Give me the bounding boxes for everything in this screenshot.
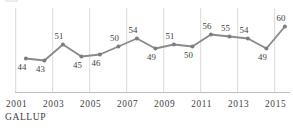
point-value-label: 44	[18, 62, 27, 72]
data-point-marker	[61, 43, 65, 47]
x-tick-label: 2007	[117, 99, 138, 109]
source-trademark: ’	[46, 112, 48, 117]
data-point-marker	[116, 45, 120, 49]
data-point-marker	[190, 45, 194, 49]
data-point-marker	[283, 25, 287, 29]
data-point-marker	[135, 37, 139, 41]
point-value-label: 54	[240, 25, 249, 35]
point-value-label: 50	[110, 33, 119, 43]
point-value-label: 54	[129, 25, 138, 35]
data-point-marker	[79, 55, 83, 59]
data-point-marker	[264, 47, 268, 51]
x-tick-label: 2011	[191, 99, 212, 109]
data-point-marker	[209, 33, 213, 37]
source-label: GALLUP’	[5, 112, 48, 122]
point-value-label: 49	[147, 52, 156, 62]
x-tick-label: 2005	[80, 99, 101, 109]
point-value-label: 45	[73, 60, 82, 70]
data-point-marker	[153, 47, 157, 51]
gallup-trend-chart: 2001200320052007200920112013201544435145…	[0, 0, 293, 128]
point-value-label: 43	[36, 64, 45, 74]
x-tick-label: 2013	[228, 99, 249, 109]
data-point-marker	[227, 35, 231, 39]
point-value-label: 51	[55, 31, 64, 41]
data-point-marker	[98, 53, 102, 57]
point-value-label: 51	[166, 31, 175, 41]
point-value-label: 60	[277, 13, 286, 23]
point-value-label: 55	[221, 23, 230, 33]
point-value-label: 49	[258, 52, 267, 62]
x-tick-label: 2009	[154, 99, 175, 109]
x-tick-label: 2001	[6, 99, 27, 109]
data-point-marker	[42, 59, 46, 63]
data-point-marker	[24, 57, 28, 61]
point-value-label: 50	[184, 50, 193, 60]
x-tick-label: 2003	[43, 99, 64, 109]
source-text: GALLUP	[5, 112, 46, 122]
point-value-label: 46	[92, 58, 101, 68]
line-chart-canvas: 2001200320052007200920112013201544435145…	[0, 0, 293, 128]
point-value-label: 56	[203, 21, 212, 31]
data-point-marker	[246, 37, 250, 41]
data-point-marker	[172, 43, 176, 47]
x-tick-label: 2015	[265, 99, 286, 109]
